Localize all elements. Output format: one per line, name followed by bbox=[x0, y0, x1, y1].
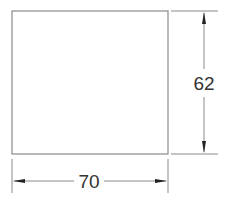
arrow-down-icon bbox=[202, 141, 206, 153]
arrow-left-icon bbox=[13, 179, 25, 183]
height-label: 62 bbox=[193, 73, 214, 94]
arrow-up-icon bbox=[202, 12, 206, 24]
rectangle-shape bbox=[12, 11, 168, 154]
technical-drawing: 62 70 bbox=[0, 0, 227, 206]
arrow-right-icon bbox=[155, 179, 167, 183]
width-label: 70 bbox=[78, 171, 99, 192]
